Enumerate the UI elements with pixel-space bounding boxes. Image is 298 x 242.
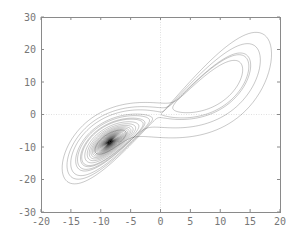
trajectory-line [62, 32, 271, 184]
y-tick-label: -10 [18, 142, 36, 153]
x-axis: -20-15-10-505101520 [32, 17, 286, 227]
y-tick-label: -20 [18, 174, 36, 185]
x-tick-label: 15 [244, 216, 256, 227]
x-tick-label: -5 [125, 216, 137, 227]
x-tick-label: -15 [62, 216, 80, 227]
x-tick-label: 20 [274, 216, 286, 227]
x-tick-label: -20 [32, 216, 50, 227]
y-tick-label: 30 [24, 12, 36, 23]
lorenz-chart: -20-15-10-505101520 -30-20-100102030 [0, 0, 298, 242]
x-tick-label: 5 [187, 216, 193, 227]
trajectory-layer [62, 32, 271, 184]
zero-lines [41, 17, 280, 212]
x-tick-label: 10 [214, 216, 226, 227]
plot-frame [42, 18, 281, 213]
x-tick-label: -10 [92, 216, 110, 227]
y-tick-label: 20 [24, 44, 36, 55]
y-tick-label: 0 [30, 109, 36, 120]
x-tick-label: 0 [157, 216, 163, 227]
y-tick-label: 10 [24, 77, 36, 88]
y-tick-label: -30 [18, 207, 36, 218]
